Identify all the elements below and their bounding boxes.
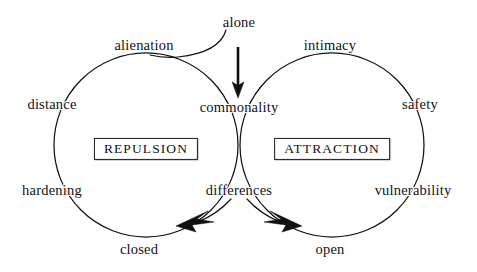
label-open: open: [316, 242, 345, 257]
label-alone: alone: [223, 15, 255, 30]
label-differences: differences: [206, 183, 272, 198]
attraction-box: ATTRACTION: [274, 138, 390, 160]
label-closed: closed: [120, 242, 158, 257]
alone-to-commonality-arrow: [232, 47, 244, 98]
label-alienation: alienation: [114, 38, 173, 53]
differences-to-closed-arrow: [176, 199, 231, 232]
label-hardening: hardening: [22, 183, 82, 198]
differences-to-open-arrow: [247, 199, 302, 232]
label-commonality: commonality: [200, 100, 279, 115]
diagram-graphics: [0, 0, 477, 272]
label-safety: safety: [402, 97, 438, 112]
label-intimacy: intimacy: [304, 38, 356, 53]
diagram-canvas: alone alienation intimacy distance commo…: [0, 0, 477, 272]
label-vulnerability: vulnerability: [375, 183, 452, 198]
label-distance: distance: [27, 97, 76, 112]
repulsion-box: REPULSION: [94, 138, 198, 160]
